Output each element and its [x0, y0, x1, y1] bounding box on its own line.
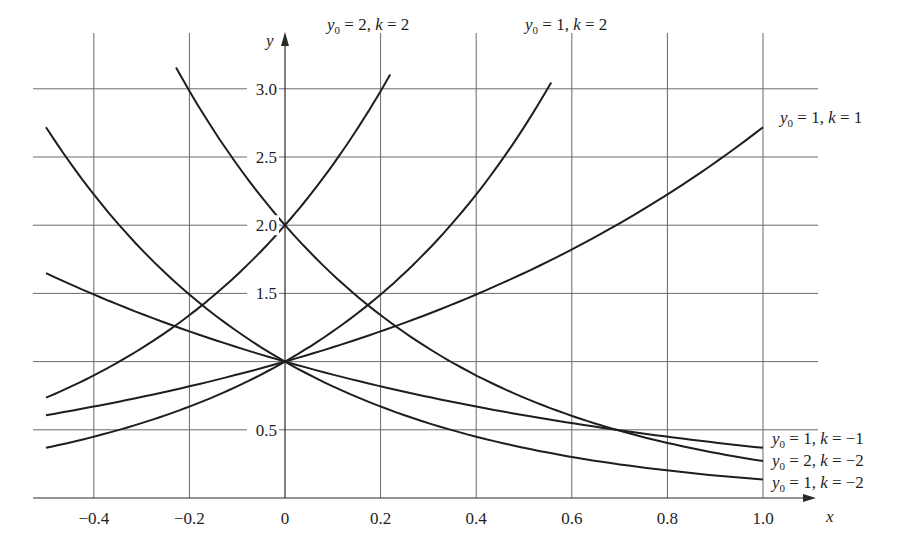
curve-labels: y0 = 2, k = 2y0 = 1, k = 2y0 = 1, k = 1y…: [325, 15, 864, 494]
curve-label: y0 = 1, k = 2: [523, 15, 607, 36]
x-axis-label: x: [825, 507, 834, 526]
x-tick-label: 1.0: [752, 509, 773, 528]
curves: [46, 68, 763, 480]
tick-labels: −0.4−0.200.20.40.60.81.00.51.52.02.53.0: [78, 79, 773, 528]
curve-2: [46, 127, 763, 415]
y-tick-label: 0.5: [256, 421, 277, 440]
curve-4: [176, 68, 763, 462]
x-tick-label: 0: [281, 509, 290, 528]
y-axis-arrow-icon: [281, 32, 289, 46]
y-axis-label: y: [264, 31, 274, 50]
y-tick-label: 2.5: [256, 148, 277, 167]
curve-0: [46, 74, 390, 397]
curve-1: [46, 83, 551, 448]
x-tick-label: 0.6: [561, 509, 582, 528]
curve-label: y0 = 2, k = 2: [325, 15, 409, 36]
x-tick-label: −0.2: [174, 509, 205, 528]
curve-5: [46, 127, 763, 479]
y-tick-label: 2.0: [256, 216, 277, 235]
x-tick-label: −0.4: [78, 509, 109, 528]
x-axis-arrow-icon: [803, 494, 816, 502]
curve-label: y0 = 2, k = −2: [770, 451, 864, 472]
curve-label: y0 = 1, k = −1: [770, 429, 864, 450]
curve-label: y0 = 1, k = 1: [778, 108, 862, 129]
y-tick-label: 1.5: [256, 284, 277, 303]
x-tick-label: 0.8: [657, 509, 678, 528]
curve-3: [46, 273, 763, 448]
exponential-curves-chart: xy −0.4−0.200.20.40.60.81.00.51.52.02.53…: [0, 0, 903, 550]
x-tick-label: 0.4: [466, 509, 488, 528]
y-tick-label: 3.0: [256, 80, 277, 99]
curve-label: y0 = 1, k = −2: [770, 473, 864, 494]
x-tick-label: 0.2: [370, 509, 391, 528]
grid-lines: [33, 33, 818, 498]
